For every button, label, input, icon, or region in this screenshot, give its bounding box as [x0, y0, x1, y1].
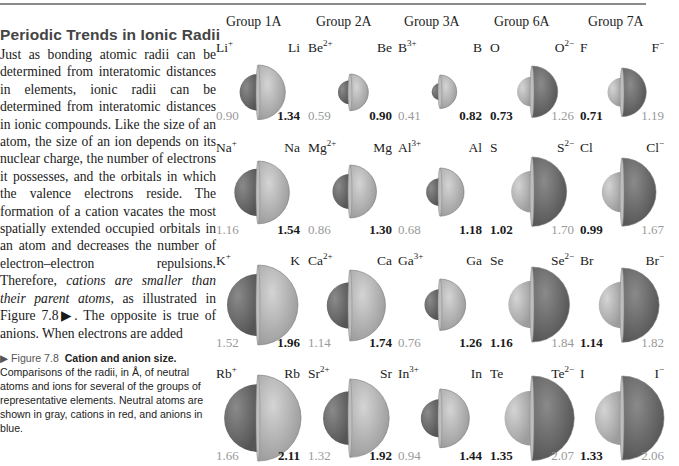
ion-charge: 2− [564, 364, 574, 374]
element-symbol: Be [377, 40, 392, 55]
atom-radius-value: 0.71 [580, 108, 603, 124]
ion-charge: 2− [564, 138, 574, 148]
atom-radius-value: 1.16 [490, 335, 513, 351]
element-pair-te: TeTe2−1.352.07 [490, 366, 576, 466]
atom-symbol: Cl [580, 140, 593, 156]
atom-sphere [258, 161, 289, 224]
element-pair-cl: ClCl−0.991.67 [580, 140, 666, 240]
radius-comparison-spheres [396, 387, 486, 450]
atom-radius-value: 1.33 [580, 448, 603, 464]
element-pair-se: SeSe2−1.161.84 [490, 253, 576, 353]
ion-charge: 3+ [409, 364, 419, 374]
atom-radius-value: 1.18 [459, 222, 482, 238]
cation-symbol: Na+ [216, 140, 237, 156]
ion-charge: + [226, 251, 231, 261]
atom-symbol: B [473, 40, 482, 56]
atom-sphere [599, 282, 622, 329]
figure-label: ▶ Figure 7.8 Cation and anion size. [0, 352, 177, 364]
atom-radius-value: 1.44 [459, 448, 482, 464]
radius-comparison-spheres [306, 163, 396, 220]
ion-charge: 3+ [414, 251, 424, 261]
atom-radius-value: 2.11 [278, 448, 300, 464]
ion-charge: 2− [564, 251, 574, 261]
section-title: Periodic Trends in Ionic Radii [0, 26, 216, 44]
element-symbol: Be [308, 40, 323, 55]
cation-radius-value: 0.59 [308, 108, 331, 124]
element-pair-ca: Ca2+Ca1.141.74 [308, 253, 394, 353]
atom-sphere [602, 172, 622, 212]
anion-radius-value: 1.26 [551, 108, 574, 124]
atom-sphere [350, 270, 385, 341]
cation-symbol: B3+ [398, 40, 417, 56]
element-symbol: Al [398, 140, 412, 155]
atom-symbol: Li [288, 40, 300, 56]
element-pair-i: II−1.332.06 [580, 366, 666, 466]
radius-comparison-spheres [306, 268, 396, 343]
element-pair-sr: Sr2+Sr1.321.92 [308, 366, 394, 466]
element-pair-al: Al3+Al0.681.18 [398, 140, 484, 240]
element-symbol: S [490, 140, 498, 155]
element-pair-be: Be2+Be0.590.90 [308, 40, 394, 140]
cation-radius-value: 1.14 [308, 335, 331, 351]
element-pair-k: K+K1.521.96 [216, 253, 302, 353]
atom-radius-value: 1.74 [369, 335, 392, 351]
element-pair-rb: Rb+Rb1.662.11 [216, 366, 302, 466]
atom-sphere [595, 391, 622, 445]
anion-radius-value: 1.19 [641, 108, 664, 124]
anion-radius-value: 1.67 [641, 222, 664, 238]
atom-radius-value: 1.54 [277, 222, 300, 238]
element-symbol: Na [284, 140, 300, 155]
atom-radius-value: 1.26 [459, 335, 482, 351]
cation-sphere [234, 168, 258, 215]
anion-symbol: F− [651, 40, 664, 56]
group-header: Group 6A [494, 14, 550, 30]
figure-title: Cation and anion size. [65, 352, 177, 364]
element-symbol: O [555, 40, 565, 55]
atom-symbol: Na [284, 140, 300, 156]
group-header: Group 1A [226, 14, 282, 30]
ion-charge: − [659, 364, 664, 374]
atom-radius-value: 0.73 [490, 108, 513, 124]
atom-sphere [504, 390, 532, 445]
radius-comparison-spheres [578, 266, 668, 344]
cation-sphere [227, 274, 258, 336]
cation-sphere [424, 289, 440, 320]
anion-radius-value: 1.70 [551, 222, 574, 238]
element-symbol: In [471, 366, 482, 381]
ionic-radii-figure: Group 1ALi+Li0.901.34Na+Na1.161.54K+K1.5… [216, 10, 679, 436]
atom-sphere [440, 75, 457, 108]
cation-radius-value: 0.90 [216, 108, 239, 124]
element-symbol: Na [216, 140, 232, 155]
element-symbol: Ga [398, 253, 414, 268]
radius-comparison-spheres [396, 277, 486, 332]
element-pair-li: Li+Li0.901.34 [216, 40, 302, 140]
ion-charge: 2+ [320, 364, 330, 374]
cation-sphere [224, 384, 258, 452]
atom-sphere [350, 74, 368, 111]
figure-caption: ▶ Figure 7.8 Cation and anion size. Comp… [0, 351, 218, 435]
atom-radius-value: 0.90 [369, 108, 392, 124]
atom-sphere [511, 171, 532, 213]
element-symbol: F [651, 40, 659, 55]
text-column: Periodic Trends in Ionic Radii Just as b… [0, 26, 216, 342]
atom-symbol: O [490, 40, 500, 56]
radius-comparison-spheres [488, 265, 578, 344]
element-symbol: O [490, 40, 500, 55]
atom-symbol: Be [377, 40, 392, 56]
body-paragraph: Just as bonding atomic radii can be dete… [0, 46, 216, 342]
element-symbol: Li [216, 40, 228, 55]
element-pair-mg: Mg2+Mg0.861.30 [308, 140, 394, 240]
atom-sphere [350, 165, 377, 218]
element-pair-o: OO2−0.731.26 [490, 40, 576, 140]
radius-comparison-spheres [488, 155, 578, 228]
element-symbol: Mg [308, 140, 327, 155]
caption-body: Comparisons of the radii, in Å, of neutr… [0, 366, 203, 434]
group-header: Group 3A [404, 14, 460, 30]
cation-radius-value: 1.16 [216, 222, 239, 238]
atom-radius-value: 1.02 [490, 222, 513, 238]
anion-radius-value: 2.06 [641, 448, 664, 464]
atom-symbol: Mg [373, 140, 392, 156]
anion-sphere [532, 267, 570, 342]
page-top-rule [0, 3, 228, 5]
paragraph-part: Just as bonding atomic radii can be dete… [0, 47, 216, 288]
